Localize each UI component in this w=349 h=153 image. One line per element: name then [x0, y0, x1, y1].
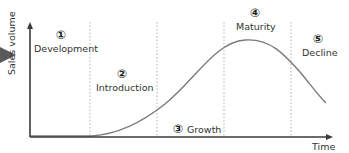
stage-1-number: ① [56, 29, 66, 41]
stage-5-number: ⑤ [313, 33, 323, 45]
stage-1-label: Development [34, 44, 98, 54]
stage-3-number: ③ [173, 123, 183, 135]
y-axis-label: Sales volume [6, 12, 17, 76]
stage-3-label: Growth [187, 125, 221, 135]
stage-2-number: ② [117, 68, 127, 80]
stage-5-label: Decline [302, 48, 338, 58]
stage-2-label: Introduction [96, 83, 154, 93]
y-axis-arrow-icon [27, 22, 33, 29]
stage-4-label: Maturity [236, 22, 276, 32]
stage-4-number: ④ [250, 7, 260, 19]
x-axis-label: Time [312, 142, 335, 152]
x-axis-arrow-icon [326, 134, 333, 140]
